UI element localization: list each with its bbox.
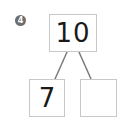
part-number-left: 7 — [39, 83, 56, 113]
part-box-right-answer[interactable] — [80, 79, 117, 117]
right-connector — [79, 52, 91, 79]
whole-number: 10 — [55, 18, 90, 48]
left-connector — [55, 52, 67, 79]
part-box-left: 7 — [29, 79, 65, 117]
whole-number-box: 10 — [49, 14, 97, 52]
